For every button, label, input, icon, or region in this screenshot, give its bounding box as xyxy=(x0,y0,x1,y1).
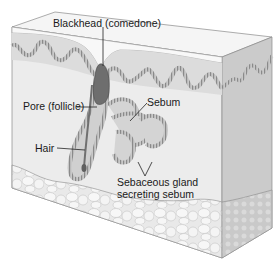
hair-bulb xyxy=(82,164,87,172)
label-sebum: Sebum xyxy=(147,96,181,108)
label-blackhead: Blackhead (comedone) xyxy=(53,17,161,29)
label-sebaceous-gland-line1: Sebaceous gland xyxy=(117,176,198,188)
label-sebaceous-gland-line2: secreting sebum xyxy=(117,188,194,200)
label-hair: Hair xyxy=(35,142,55,154)
label-pore: Pore (follicle) xyxy=(23,100,84,112)
skin-diagram: Blackhead (comedone) Pore (follicle) Seb… xyxy=(0,0,279,260)
